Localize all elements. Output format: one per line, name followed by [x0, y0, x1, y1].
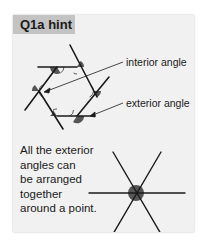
hint-card: Q1a hint: [13, 15, 194, 232]
body-line: angles can: [20, 158, 105, 173]
exterior-angle-label: exterior angle: [126, 97, 190, 109]
body-line: be arranged: [20, 172, 105, 187]
body-line: All the exterior: [20, 143, 105, 158]
body-line: together: [20, 187, 105, 202]
hexagon-sides: [25, 45, 109, 129]
interior-angle-label: interior angle: [126, 56, 187, 68]
body-line: around a point.: [20, 201, 105, 216]
hexagon-exterior-angles: [32, 61, 101, 123]
hint-body-text: All the exterior angles can be arranged …: [20, 143, 105, 216]
